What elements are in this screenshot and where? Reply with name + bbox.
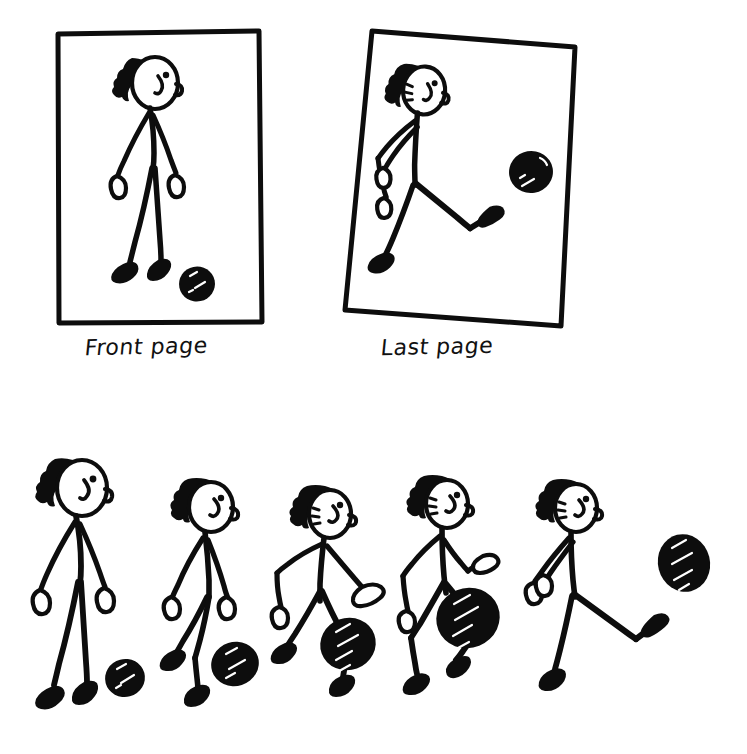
ball-front-page — [176, 263, 218, 305]
ball-last-page — [506, 147, 557, 196]
kick-sequence-group — [0, 424, 747, 754]
panel-front-page — [58, 31, 262, 323]
sequence-figure-4 — [399, 475, 509, 695]
sequence-figure-1 — [33, 458, 150, 709]
panel-last-page — [345, 31, 575, 326]
framed-panels-group — [0, 0, 747, 330]
sequence-figure-2 — [160, 478, 265, 707]
stick-figure-kicking — [367, 62, 515, 283]
illustration-canvas: Front page Last page — [0, 0, 747, 754]
sequence-ball-2 — [205, 636, 264, 693]
caption-last-page: Last page — [381, 334, 493, 359]
sequence-ball-1 — [101, 654, 149, 701]
caption-front-page: Front page — [85, 334, 208, 359]
sequence-ball-3 — [313, 610, 383, 678]
sequence-figure-3 — [271, 485, 384, 697]
sequence-figure-5 — [526, 479, 717, 691]
sequence-ball-5 — [652, 529, 716, 598]
stick-figure-standing — [111, 57, 184, 283]
